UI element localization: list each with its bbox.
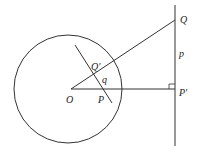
right-angle-marker — [169, 84, 175, 89]
label-O: O — [66, 94, 73, 105]
segment-O-Q — [71, 20, 175, 89]
label-P-prime: P′ — [178, 87, 188, 98]
label-Q-prime: Q′ — [91, 61, 101, 72]
label-Q: Q — [180, 14, 188, 25]
geometry-diagram: O P Q′ q Q p P′ — [0, 0, 198, 155]
label-q: q — [102, 74, 107, 85]
label-P: P — [97, 94, 104, 105]
label-p: p — [178, 48, 184, 59]
